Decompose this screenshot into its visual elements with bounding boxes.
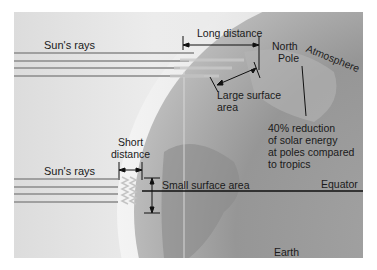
short-distance-label-2: distance	[111, 148, 150, 160]
sun-rays-top-label: Sun's rays	[44, 39, 95, 51]
earth-label: Earth	[274, 246, 299, 258]
reduction-label-4: to tropics	[268, 158, 311, 170]
diagram-panel: Sun's rays Long distance North Pole Atmo…	[14, 12, 363, 258]
north-pole-label-1: North	[272, 40, 298, 52]
reduction-label-1: 40% reduction	[268, 122, 335, 134]
short-distance-label-1: Short	[118, 136, 143, 148]
equator-label: Equator	[321, 178, 358, 190]
large-surface-label-2: area	[217, 101, 238, 113]
sun-rays-bottom-icon	[14, 179, 118, 202]
reduction-label-2: of solar energy	[268, 134, 337, 146]
north-pole-label-2: Pole	[278, 52, 299, 64]
sun-rays-bottom-label: Sun's rays	[44, 165, 95, 177]
small-surface-label: Small surface area	[162, 179, 250, 191]
reduction-label-3: at poles compared	[268, 146, 354, 158]
large-surface-label-1: Large surface	[217, 89, 281, 101]
long-distance-label: Long distance	[197, 27, 262, 39]
